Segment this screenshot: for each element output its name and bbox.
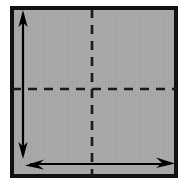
diagram-canvas: Square panel with dashed center cross an… — [0, 0, 184, 189]
gray-square-panel — [10, 6, 178, 178]
figure-root: Square panel with dashed center cross an… — [0, 0, 184, 189]
